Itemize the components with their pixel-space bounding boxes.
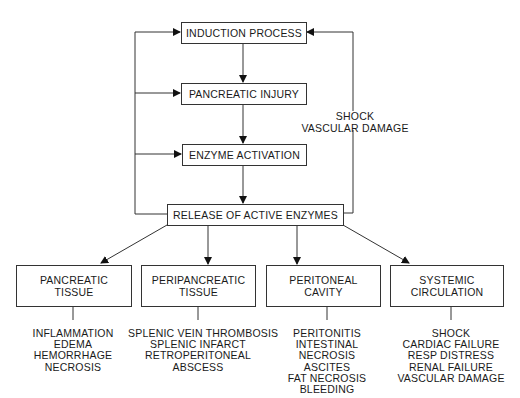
target-title-line2: CIRCULATION — [411, 286, 484, 298]
target-box-systemic-circulation: SYSTEMICCIRCULATION — [390, 265, 504, 307]
effects-list-pancreatic-tissue: INFLAMMATION EDEMA HEMORRHAGE NECROSIS — [13, 328, 133, 373]
effect-item: NECROSIS — [267, 350, 387, 361]
effects-list-systemic-circulation: SHOCK CARDIAC FAILURE RESP DISTRESS RENA… — [391, 328, 511, 384]
effect-item: VASCULAR DAMAGE — [391, 373, 511, 384]
pancreatic-injury-box: PANCREATIC INJURY — [181, 83, 307, 105]
induction-process-label: INDUCTION PROCESS — [186, 27, 302, 39]
effects-list-peripancreatic-tissue: SPLENIC VEIN THROMBOSIS SPLENIC INFARCT … — [128, 328, 268, 373]
feedback-label-line2: VASCULAR DAMAGE — [300, 123, 410, 135]
pancreatic-injury-label: PANCREATIC INJURY — [189, 88, 299, 100]
target-title-line2: CAVITY — [289, 286, 357, 298]
induction-process-box: INDUCTION PROCESS — [181, 22, 307, 44]
release-active-enzymes-box: RELEASE OF ACTIVE ENZYMES — [167, 204, 344, 226]
target-title-line1: SYSTEMIC — [411, 274, 484, 286]
target-title-line2: TISSUE — [40, 286, 108, 298]
effect-item: RESP DISTRESS — [391, 350, 511, 361]
target-title-line1: PERITONEAL — [289, 274, 357, 286]
target-title-line1: PANCREATIC — [40, 274, 108, 286]
release-active-enzymes-label: RELEASE OF ACTIVE ENZYMES — [173, 209, 338, 221]
feedback-label: SHOCK VASCULAR DAMAGE — [300, 111, 410, 134]
effect-item: BLEEDING — [267, 384, 387, 395]
effect-item: HEMORRHAGE — [13, 350, 133, 361]
effect-item: NECROSIS — [13, 362, 133, 373]
effect-item: RETROPERITONEAL — [128, 350, 268, 361]
target-box-peripancreatic-tissue: PERIPANCREATICTISSUE — [141, 265, 256, 307]
target-box-peritoneal-cavity: PERITONEALCAVITY — [266, 265, 381, 307]
target-box-pancreatic-tissue: PANCREATICTISSUE — [16, 265, 132, 307]
effects-list-peritoneal-cavity: PERITONITIS INTESTINAL NECROSIS ASCITES … — [267, 328, 387, 395]
enzyme-activation-box: ENZYME ACTIVATION — [182, 144, 307, 166]
effect-item: ABSCESS — [128, 362, 268, 373]
target-title-line1: PERIPANCREATIC — [152, 274, 245, 286]
enzyme-activation-label: ENZYME ACTIVATION — [189, 149, 300, 161]
feedback-label-line1: SHOCK — [300, 111, 410, 123]
target-title-line2: TISSUE — [152, 286, 245, 298]
